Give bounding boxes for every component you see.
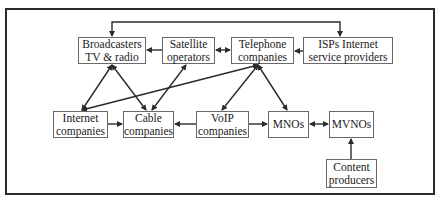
node-label: Satellite	[170, 38, 208, 51]
node-cable: Cable companies	[123, 111, 174, 138]
node-label: MVNOs	[332, 118, 372, 131]
node-label: Cable	[135, 112, 162, 125]
edge-telephone-voip	[222, 65, 258, 110]
edge-broadcasters-cable	[112, 65, 146, 110]
node-label: VoIP	[211, 112, 234, 125]
node-label: producers	[329, 174, 374, 187]
node-label: Internet	[63, 112, 99, 125]
node-label: ISPs Internet	[318, 38, 378, 51]
node-label: Content	[333, 161, 369, 174]
edge-telephone-mnos	[258, 65, 287, 110]
node-mvnos: MVNOs	[329, 111, 374, 138]
node-label: operators	[167, 51, 210, 64]
node-content: Content producers	[326, 159, 377, 188]
node-label: companies	[238, 51, 287, 64]
node-satellite: Satellite operators	[162, 37, 215, 64]
node-label: companies	[124, 125, 173, 138]
node-label: Broadcasters	[82, 38, 141, 51]
node-telephone: Telephone companies	[231, 37, 294, 64]
edge-internet-telephone	[82, 65, 258, 110]
node-label: companies	[56, 125, 105, 138]
node-label: MNOs	[273, 118, 304, 131]
node-mnos: MNOs	[268, 111, 309, 138]
node-voip: VoIP companies	[196, 111, 249, 138]
edge-broadcasters-isps	[112, 22, 340, 36]
node-label: TV & radio	[85, 51, 138, 64]
node-label: service providers	[309, 51, 388, 64]
node-isps: ISPs Internet service providers	[303, 37, 393, 64]
node-label: companies	[198, 125, 247, 138]
node-broadcasters: Broadcasters TV & radio	[78, 37, 146, 64]
node-label: Telephone	[239, 38, 287, 51]
node-internet: Internet companies	[53, 111, 108, 138]
